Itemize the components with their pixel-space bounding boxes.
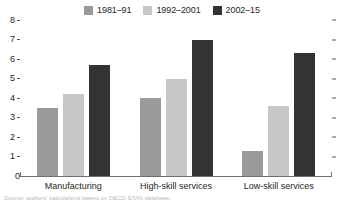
y-tick-mark-right-8 xyxy=(332,20,336,21)
x-axis-labels: Manufacturing High-skill services Low-sk… xyxy=(22,181,330,191)
axis-cap-right xyxy=(331,172,332,177)
y-tick-1: 1 xyxy=(10,152,20,162)
y-tick-label-6: 6 xyxy=(10,55,15,64)
bar xyxy=(242,151,263,176)
y-tick-mark-6 xyxy=(17,59,20,60)
y-tick-6: 6 xyxy=(10,54,20,64)
bar-group-manufacturing xyxy=(22,20,125,176)
x-axis-line xyxy=(20,176,332,177)
bar xyxy=(268,106,289,176)
x-label-manufacturing: Manufacturing xyxy=(22,181,125,191)
y-tick-7: 7 xyxy=(10,35,20,45)
x-label-high-skill-services: High-skill services xyxy=(125,181,228,191)
y-tick-mark-right-1 xyxy=(332,156,336,157)
y-tick-8: 8 xyxy=(10,15,20,25)
y-tick-mark-right-3 xyxy=(332,117,336,118)
y-axis-right-ticks xyxy=(330,20,344,180)
y-tick-mark-3 xyxy=(17,117,20,118)
bar xyxy=(294,53,315,176)
y-tick-mark-right-2 xyxy=(332,137,336,138)
legend-item-2002-15: 2002–15 xyxy=(213,6,260,15)
bar-chart: 1981–91 1992–2001 2002–15 876543210 Manu… xyxy=(0,0,344,201)
y-axis: 876543210 xyxy=(0,20,20,180)
y-tick-5: 5 xyxy=(10,74,20,84)
y-tick-label-4: 4 xyxy=(10,94,15,103)
plot-area: 876543210 xyxy=(0,20,344,180)
legend-label-1981-91: 1981–91 xyxy=(97,6,131,15)
y-tick-label-3: 3 xyxy=(10,113,15,122)
legend-swatch-1981-91 xyxy=(84,6,93,15)
y-tick-mark-5 xyxy=(17,78,20,79)
legend-label-2002-15: 2002–15 xyxy=(226,6,260,15)
source-note: Source: authors' calculations based on O… xyxy=(4,195,204,201)
chart-legend: 1981–91 1992–2001 2002–15 xyxy=(0,3,344,17)
y-tick-label-5: 5 xyxy=(10,74,15,83)
y-tick-mark-right-4 xyxy=(332,98,336,99)
y-tick-mark-right-6 xyxy=(332,59,336,60)
y-tick-4: 4 xyxy=(10,93,20,103)
bar-group-high-skill-services xyxy=(125,20,228,176)
bars-area xyxy=(22,20,330,176)
x-label-low-skill-services: Low-skill services xyxy=(227,181,330,191)
y-tick-mark-8 xyxy=(17,20,20,21)
legend-swatch-2002-15 xyxy=(213,6,222,15)
bar-group-low-skill-services xyxy=(227,20,330,176)
y-tick-mark-right-7 xyxy=(332,39,336,40)
legend-swatch-1992-2001 xyxy=(143,6,152,15)
y-tick-mark-4 xyxy=(17,98,20,99)
legend-item-1981-91: 1981–91 xyxy=(84,6,131,15)
y-tick-2: 2 xyxy=(10,132,20,142)
y-tick-label-7: 7 xyxy=(10,35,15,44)
bar xyxy=(37,108,58,176)
y-tick-label-8: 8 xyxy=(10,16,15,25)
bar xyxy=(63,94,84,176)
bar xyxy=(89,65,110,176)
y-tick-mark-1 xyxy=(17,156,20,157)
legend-label-1992-2001: 1992–2001 xyxy=(156,6,200,15)
y-tick-mark-right-5 xyxy=(332,78,336,79)
bar xyxy=(140,98,161,176)
legend-item-1992-2001: 1992–2001 xyxy=(143,6,200,15)
y-tick-mark-2 xyxy=(17,137,20,138)
y-tick-label-2: 2 xyxy=(10,133,15,142)
y-tick-mark-7 xyxy=(17,39,20,40)
axis-cap-left xyxy=(20,172,21,177)
y-tick-label-1: 1 xyxy=(10,152,15,161)
y-tick-3: 3 xyxy=(10,113,20,123)
bar xyxy=(166,79,187,177)
bar xyxy=(192,40,213,177)
